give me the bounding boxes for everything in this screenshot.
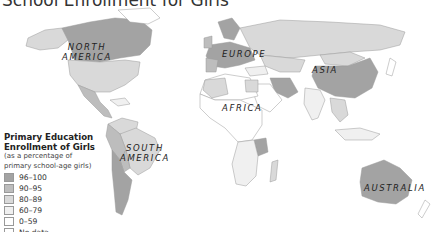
southeast-asia — [330, 98, 348, 122]
scandinavia-region — [218, 18, 240, 40]
usa-region — [68, 60, 140, 92]
southern-africa — [232, 140, 258, 186]
legend-item-80-89: 80–89 — [4, 194, 114, 205]
uk-region — [204, 36, 212, 48]
caribbean-region — [110, 98, 130, 106]
legend-item-90-95: 90–95 — [4, 183, 114, 194]
legend-swatch — [4, 184, 14, 193]
india-region — [304, 88, 325, 120]
legend-swatch — [4, 228, 14, 232]
madagascar-region — [270, 160, 278, 182]
label-africa: AFRICA — [222, 103, 262, 113]
australia-region — [360, 160, 412, 204]
legend-subtitle-line1: (as a percentage of — [4, 152, 114, 160]
new-zealand-region — [418, 200, 430, 218]
central-africa — [200, 94, 262, 142]
legend-swatch — [4, 217, 14, 226]
turkey-region — [245, 66, 268, 76]
legend-title-line1: Primary Education — [4, 132, 114, 142]
legend: Primary Education Enrollment of Girls (a… — [4, 132, 114, 232]
kazakhstan-region — [260, 55, 305, 72]
legend-subtitle-line2: primary school-age girls) — [4, 162, 114, 170]
iberia-region — [206, 58, 218, 72]
indonesia-region — [335, 128, 380, 140]
legend-item-0-59: 0–59 — [4, 216, 114, 227]
legend-item-96-100: 96–100 — [4, 172, 114, 183]
legend-swatch — [4, 195, 14, 204]
label-europe: EUROPE — [222, 49, 266, 59]
egypt-region — [245, 80, 258, 92]
label-south-america: SOUTHAMERICA — [120, 143, 170, 163]
label-asia: ASIA — [312, 65, 338, 75]
legend-title-line2: Enrollment of Girls — [4, 142, 114, 152]
legend-swatch — [4, 173, 14, 182]
label-north-america: NORTHAMERICA — [62, 42, 112, 62]
legend-swatch — [4, 206, 14, 215]
japan-region — [386, 58, 396, 76]
legend-item-no-data: No data — [4, 227, 114, 232]
legend-item-60-79: 60–79 — [4, 205, 114, 216]
label-australia: AUSTRALIA — [364, 183, 426, 193]
